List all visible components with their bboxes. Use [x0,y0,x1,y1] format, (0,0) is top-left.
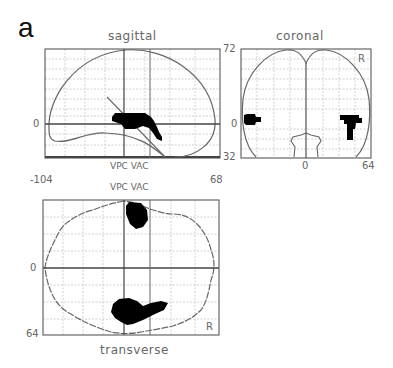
sagittal-brain-outline [49,50,215,157]
coronal-y-max-label: 72 [223,44,236,54]
sagittal-x-min-label: -104 [30,175,53,185]
transverse-activation-anterior [126,202,148,229]
panel-label: a [18,14,34,42]
coronal-activation-right [340,115,362,140]
sagittal-x-max-label: 68 [210,175,223,185]
coronal-y-min-label: 32 [223,152,236,162]
sagittal-grid [45,49,220,158]
transverse-y-zero-label: 0 [30,263,36,273]
transverse-y-max-label: 64 [26,329,39,339]
transverse-title: transverse [100,344,169,356]
sagittal-landmark-label: VPC VAC [110,162,149,171]
coronal-view [241,49,371,158]
coronal-title: coronal [276,30,324,42]
coronal-x-max-label: 64 [362,161,375,171]
coronal-x-zero-label: 0 [302,161,308,171]
sagittal-activation [112,113,162,141]
sagittal-y-zero-label: 0 [33,119,39,129]
transverse-view [43,200,219,335]
sagittal-view [45,49,220,158]
transverse-landmark-label: VPC VAC [110,183,149,192]
coronal-y-zero-label: 0 [231,119,237,129]
coronal-activation-left [244,114,261,125]
sagittal-title: sagittal [108,30,157,42]
